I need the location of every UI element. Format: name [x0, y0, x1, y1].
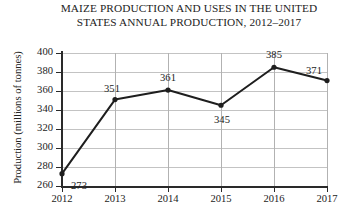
series-line [0, 0, 360, 211]
data-point-label: 385 [266, 49, 282, 60]
data-point-label: 361 [160, 72, 176, 83]
data-point-marker [165, 87, 170, 92]
data-point-label: 273 [71, 179, 87, 190]
data-point-marker [112, 97, 117, 102]
data-point-label: 345 [214, 114, 230, 125]
data-point-label: 371 [306, 64, 322, 75]
data-point-marker [324, 78, 329, 83]
data-point-marker [59, 171, 64, 176]
chart-figure: MAIZE PRODUCTION AND USES IN THE UNITED … [0, 0, 360, 211]
data-point-label: 351 [104, 82, 120, 93]
data-point-marker [218, 103, 223, 108]
data-point-marker [271, 65, 276, 70]
